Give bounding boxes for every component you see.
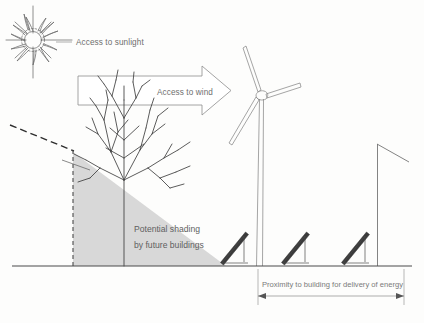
label-potential-shading-line1: Potential shading: [134, 224, 200, 234]
mast-pole-icon: [377, 144, 409, 266]
diagram-canvas: Access to sunlight Access to wind: [0, 0, 424, 323]
label-access-to-wind: Access to wind: [157, 88, 213, 97]
label-potential-shading-line2: by future buildings: [134, 240, 204, 250]
wind-turbine-icon: [229, 46, 301, 266]
label-access-to-sunlight: Access to sunlight: [76, 38, 144, 47]
solar-panel-icon: [221, 232, 370, 265]
solar-panel-3: [342, 232, 370, 265]
solar-panel-2: [282, 232, 310, 265]
label-proximity-to-building: Proximity to building for delivery of en…: [262, 280, 403, 289]
renewable-energy-site-diagram: Access to sunlight Access to wind: [0, 0, 424, 323]
solar-panel-1: [221, 232, 249, 265]
